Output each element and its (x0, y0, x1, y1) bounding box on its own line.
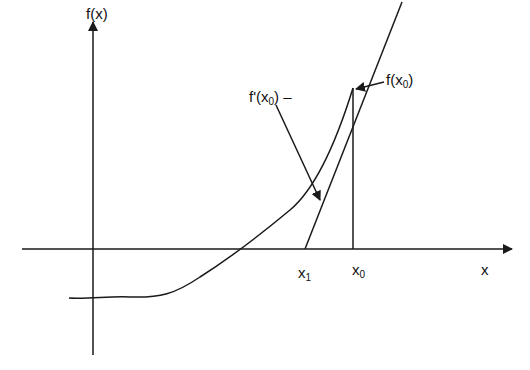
y-axis-label: f(x) (86, 6, 108, 21)
diagram-canvas (0, 0, 530, 370)
fprime-x0-label: f'(x0) – (249, 89, 292, 107)
x1-label: x1 (298, 265, 311, 283)
x0-label: x0 (352, 262, 365, 280)
fx0-label: f(x0) (386, 72, 413, 90)
x-axis-label: x (481, 262, 489, 277)
fprime-pointer-arrow (276, 105, 320, 200)
